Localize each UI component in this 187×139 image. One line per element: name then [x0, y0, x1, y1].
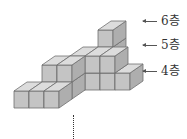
cube-group — [14, 21, 143, 108]
layer-label-4: 4층 — [143, 65, 180, 77]
left-arrow-icon — [143, 21, 157, 22]
left-arrow-icon — [143, 45, 157, 46]
left-arrow-icon — [143, 71, 157, 72]
layer-label-5: 5층 — [143, 39, 180, 51]
layer-label-text: 4층 — [161, 65, 180, 77]
vertical-dotted-line — [73, 115, 74, 139]
layer-label-text: 5층 — [161, 39, 180, 51]
layer-label-text: 6층 — [161, 15, 180, 27]
layer-label-6: 6층 — [143, 15, 180, 27]
